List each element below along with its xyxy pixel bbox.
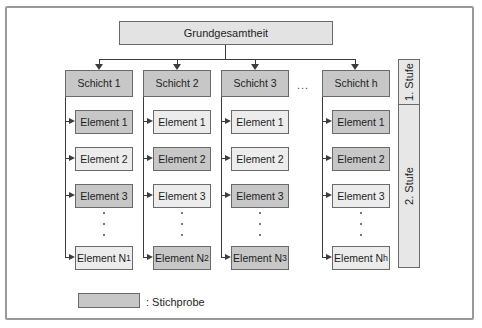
element-box: Element 2 — [153, 147, 211, 171]
element-box: Element 1 — [332, 110, 390, 134]
connector-line — [225, 45, 226, 59]
element-box: Element 1 — [75, 110, 133, 134]
element-label: Element N — [233, 253, 282, 264]
element-label: Element N — [334, 253, 383, 264]
element-box: Element 1 — [153, 110, 211, 134]
element-subscript: 1 — [126, 254, 131, 263]
stage-2-label: 2. Stufe — [403, 167, 415, 205]
element-box: Element N1 — [75, 246, 133, 270]
element-box: Element 2 — [231, 147, 289, 171]
population-box: Grundgesamtheit — [119, 21, 333, 45]
stratum-box-2: Schicht 2 — [143, 70, 211, 97]
vertical-ellipsis — [258, 212, 261, 236]
element-subscript: 2 — [204, 254, 209, 263]
element-box: Element 2 — [332, 147, 390, 171]
stratum-box-h: Schicht h — [322, 70, 390, 97]
legend-swatch — [78, 293, 140, 308]
element-label: Element N — [77, 253, 126, 264]
element-subscript: h — [383, 254, 388, 263]
stratum-box-1: Schicht 1 — [65, 70, 133, 97]
stage-1-label: 1. Stufe — [403, 63, 415, 101]
stratum-box-3: Schicht 3 — [221, 70, 289, 97]
sampling-diagram: Grundgesamtheit ... Schicht 1 Element 1 … — [0, 0, 482, 328]
element-subscript: 3 — [282, 254, 287, 263]
element-box: Element 3 — [332, 184, 390, 208]
element-box: Element N2 — [153, 246, 211, 270]
element-box: Element 3 — [231, 184, 289, 208]
connector-line — [99, 59, 356, 60]
vertical-ellipsis — [102, 212, 105, 236]
stage-2-bar: 2. Stufe — [398, 104, 420, 268]
vertical-ellipsis — [359, 212, 362, 236]
element-box: Element 2 — [75, 147, 133, 171]
element-box: Element N3 — [231, 246, 289, 270]
element-label: Element N — [155, 253, 204, 264]
element-box: Element 1 — [231, 110, 289, 134]
element-box: Element 3 — [75, 184, 133, 208]
element-box: Element Nh — [332, 246, 390, 270]
element-box: Element 3 — [153, 184, 211, 208]
horizontal-ellipsis: ... — [297, 79, 309, 91]
stage-1-bar: 1. Stufe — [398, 59, 420, 105]
vertical-ellipsis — [180, 212, 183, 236]
legend-label: : Stichprobe — [146, 296, 205, 308]
